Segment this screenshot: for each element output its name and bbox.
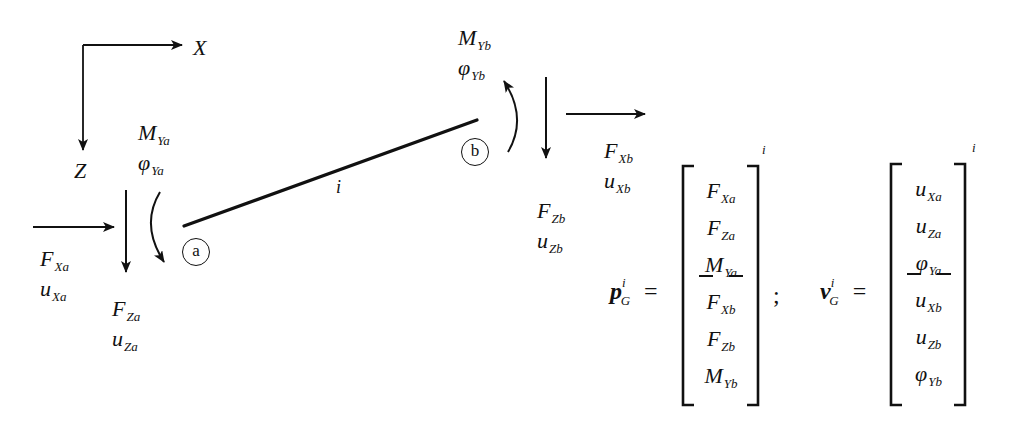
- force-za-subscript: Za: [126, 309, 140, 324]
- displacement-vector-sub: G: [829, 293, 838, 308]
- moment-yb-symbol: M: [458, 25, 476, 50]
- moment-ya-label-group: MYa φYa: [138, 122, 170, 182]
- entry-subscript: Xb: [721, 302, 735, 317]
- x-axis-label: X: [193, 37, 206, 59]
- force-zb-label-group: FZb uZb: [537, 200, 565, 260]
- displacement-vector-entry: uXb: [891, 281, 966, 318]
- entry-symbol: u: [916, 324, 927, 349]
- disp-za-symbol: u: [112, 326, 123, 351]
- displacement-vector-entry: uXa: [891, 170, 966, 207]
- force-zb-symbol: F: [537, 198, 550, 223]
- disp-xa-symbol: u: [40, 276, 51, 301]
- moment-ya-arrow: [151, 192, 164, 262]
- entry-subscript: Ya: [724, 265, 737, 280]
- disp-xb-subscript: Xb: [616, 181, 630, 196]
- separator-semicolon: ;: [773, 282, 780, 309]
- rotation-yb-subscript: Yb: [471, 68, 485, 83]
- displacement-vector-sup: i: [831, 275, 835, 290]
- moment-ya-symbol: M: [138, 120, 156, 145]
- entry-subscript: Za: [928, 226, 942, 241]
- force-vector-bracket-sup: i: [762, 142, 766, 158]
- force-vector-entry: MYb: [683, 357, 759, 394]
- force-vector-sup: i: [622, 275, 626, 290]
- member-line: [184, 120, 477, 226]
- rotation-ya-subscript: Ya: [151, 163, 164, 178]
- force-za-label-group: FZa uZa: [112, 298, 140, 358]
- displacement-vector-matrix: uXa uZa φYa uXb uZb φYb: [891, 170, 966, 404]
- entry-symbol: u: [916, 213, 927, 238]
- force-vector-matrix: FXa FZa MYa FXb FZb MYb: [683, 172, 759, 404]
- entry-symbol: F: [707, 326, 720, 351]
- entry-subscript: Xa: [927, 189, 941, 204]
- force-xa-symbol: F: [40, 246, 53, 271]
- entry-subscript: Xb: [927, 300, 941, 315]
- entry-symbol: u: [915, 176, 926, 201]
- node-a: a: [182, 238, 210, 266]
- force-xa-label-group: FXa uXa: [40, 248, 69, 308]
- displacement-vector-bracket-sup: i: [972, 140, 976, 156]
- displacement-vector-entry: φYa: [891, 244, 966, 281]
- moment-yb-subscript: Yb: [477, 38, 491, 53]
- force-vector-equals: =: [644, 278, 658, 304]
- entry-subscript: Ya: [929, 263, 942, 278]
- displacement-vector-entry: uZa: [891, 207, 966, 244]
- rotation-ya-symbol: φ: [138, 150, 150, 175]
- force-vector-label: piG =: [610, 278, 658, 305]
- force-vector-sub: G: [621, 293, 630, 308]
- rotation-yb-symbol: φ: [458, 55, 470, 80]
- force-xb-label-group: FXb uXb: [604, 140, 633, 200]
- z-axis-label: Z: [74, 160, 86, 182]
- entry-symbol: u: [915, 287, 926, 312]
- entry-subscript: Yb: [724, 376, 738, 391]
- entry-symbol: M: [705, 252, 723, 277]
- entry-symbol: F: [707, 289, 720, 314]
- entry-subscript: Zb: [928, 337, 942, 352]
- displacement-vector-entry: φYb: [891, 355, 966, 392]
- moment-yb-label-group: MYb φYb: [458, 27, 491, 87]
- member-label: i: [336, 178, 341, 196]
- entry-symbol: F: [707, 178, 720, 203]
- force-zb-subscript: Zb: [551, 211, 565, 226]
- entry-symbol: φ: [916, 250, 928, 275]
- force-vector-entry: FXa: [683, 172, 759, 209]
- disp-zb-subscript: Zb: [549, 241, 563, 256]
- force-xa-subscript: Xa: [54, 259, 68, 274]
- displacement-vector-equals: =: [853, 278, 867, 304]
- entry-subscript: Zb: [721, 339, 735, 354]
- disp-xa-subscript: Xa: [52, 289, 66, 304]
- entry-symbol: φ: [915, 361, 927, 386]
- force-za-symbol: F: [112, 296, 125, 321]
- force-vector-entry: FZb: [683, 320, 759, 357]
- moment-yb-arrow: [504, 81, 517, 152]
- displacement-vector-label: viG =: [820, 278, 866, 305]
- entry-subscript: Yb: [928, 374, 942, 389]
- disp-za-subscript: Za: [124, 339, 138, 354]
- diagram-canvas: [0, 0, 1015, 435]
- entry-subscript: Xa: [721, 191, 735, 206]
- force-xb-symbol: F: [604, 138, 617, 163]
- force-vector-entry: MYa: [683, 246, 759, 283]
- entry-subscript: Za: [721, 228, 735, 243]
- entry-symbol: M: [704, 363, 722, 388]
- force-vector-entry: FZa: [683, 209, 759, 246]
- moment-ya-subscript: Ya: [157, 133, 170, 148]
- force-vector-entry: FXb: [683, 283, 759, 320]
- disp-zb-symbol: u: [537, 228, 548, 253]
- entry-symbol: F: [707, 215, 720, 240]
- disp-xb-symbol: u: [604, 168, 615, 193]
- displacement-vector-entry: uZb: [891, 318, 966, 355]
- force-xb-subscript: Xb: [618, 151, 632, 166]
- node-b: b: [461, 138, 489, 166]
